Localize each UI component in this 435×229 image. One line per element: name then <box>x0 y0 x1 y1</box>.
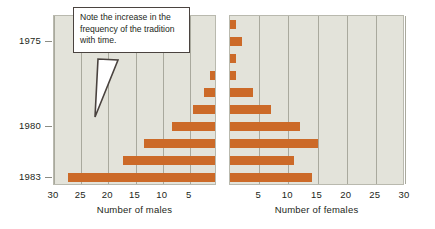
year-tick-1983 <box>45 177 52 178</box>
gridline-30 <box>405 16 406 184</box>
x-tick-label-males-15: 15 <box>124 189 146 200</box>
year-label-1983: 1983 <box>3 171 41 182</box>
bar <box>230 156 294 165</box>
year-tick-1975 <box>45 41 52 42</box>
plot-panel-females <box>229 15 404 185</box>
bar <box>230 37 242 46</box>
bar <box>68 173 215 182</box>
year-tick-1980 <box>45 126 52 127</box>
bar <box>230 173 312 182</box>
bar <box>230 54 236 63</box>
x-tick-label-females-25: 25 <box>364 189 386 200</box>
year-label-1975: 1975 <box>3 35 41 46</box>
year-label-1980: 1980 <box>3 120 41 131</box>
x-tick-label-females-30: 30 <box>393 189 415 200</box>
x-axis-title-females: Number of females <box>229 204 404 215</box>
x-tick-label-males-10: 10 <box>151 189 173 200</box>
figure-canvas: 197519801983 30252015105 51015202530 Num… <box>0 0 435 229</box>
x-tick-label-females-15: 15 <box>306 189 328 200</box>
x-tick-label-females-5: 5 <box>247 189 269 200</box>
x-axis-title-males: Number of males <box>53 204 216 215</box>
x-tick-label-females-20: 20 <box>335 189 357 200</box>
bar <box>123 156 215 165</box>
bar <box>230 139 318 148</box>
x-tick-label-males-20: 20 <box>96 189 118 200</box>
bar <box>230 71 236 80</box>
bar <box>230 20 236 29</box>
x-tick-label-males-30: 30 <box>42 189 64 200</box>
annotation-callout: Note the increase in the frequency of th… <box>73 7 190 53</box>
bar <box>230 122 300 131</box>
bar <box>230 88 253 97</box>
bar <box>204 88 215 97</box>
bar <box>193 105 215 114</box>
bar <box>144 139 215 148</box>
bar <box>210 71 215 80</box>
x-tick-label-males-25: 25 <box>69 189 91 200</box>
bar <box>172 122 216 131</box>
bar <box>230 105 271 114</box>
x-tick-label-males-5: 5 <box>178 189 200 200</box>
bar-series-females <box>230 16 403 184</box>
x-tick-label-females-10: 10 <box>276 189 298 200</box>
